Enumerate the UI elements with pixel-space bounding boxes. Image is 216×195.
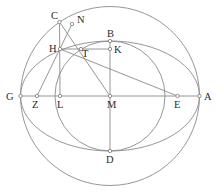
label-n: N bbox=[77, 14, 85, 25]
label-d: D bbox=[106, 154, 114, 165]
label-z: Z bbox=[32, 99, 38, 110]
label-a: A bbox=[204, 91, 212, 102]
point-h bbox=[58, 47, 61, 50]
point-g bbox=[19, 94, 22, 97]
point-c bbox=[58, 20, 61, 23]
segment-cl bbox=[60, 22, 61, 96]
label-b: B bbox=[107, 28, 114, 39]
geometric-diagram: CNBHTKGZLMEAD bbox=[0, 0, 216, 195]
point-a bbox=[198, 94, 201, 97]
point-l bbox=[58, 94, 61, 97]
label-c: C bbox=[51, 10, 58, 21]
point-d bbox=[108, 149, 111, 152]
label-h: H bbox=[49, 43, 57, 54]
label-e: E bbox=[174, 99, 180, 110]
segment-cm bbox=[60, 22, 111, 96]
point-b bbox=[108, 39, 111, 42]
label-m: M bbox=[107, 99, 117, 110]
point-e bbox=[176, 94, 179, 97]
label-t: T bbox=[82, 48, 89, 59]
point-m bbox=[108, 94, 111, 97]
labels-group: CNBHTKGZLMEAD bbox=[6, 10, 212, 165]
point-k bbox=[108, 47, 111, 50]
point-z bbox=[35, 94, 38, 97]
point-n bbox=[70, 22, 73, 25]
label-l: L bbox=[57, 99, 63, 110]
label-k: K bbox=[114, 44, 122, 55]
label-g: G bbox=[6, 91, 14, 102]
